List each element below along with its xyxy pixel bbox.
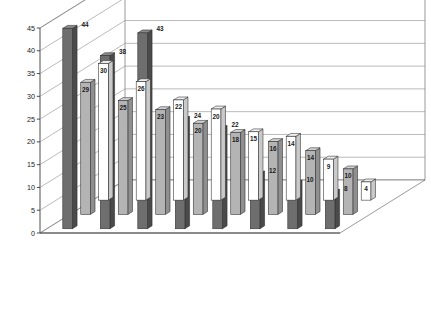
bar-value-label: 44	[82, 21, 90, 28]
y-tick-label: 40	[27, 46, 35, 55]
chart-container: 051015202530354045 443843242212108292523…	[0, 0, 431, 315]
bar-disrespect-for-authority-1	[118, 98, 132, 215]
bar-crime-3	[211, 106, 225, 200]
y-tick-label: 25	[27, 115, 35, 124]
y-tick-label: 5	[31, 206, 35, 215]
bar-value-label: 10	[344, 172, 352, 179]
bar-disrespect-for-authority-2	[156, 107, 170, 215]
bar-value-label: 20	[194, 127, 202, 134]
y-tick-label: 0	[31, 229, 35, 238]
bar-value-label: 4	[364, 185, 368, 192]
bar-value-label: 23	[157, 113, 165, 120]
y-tick-label: 35	[27, 69, 35, 78]
bar-value-label: 26	[137, 85, 145, 92]
bar-value-label: 30	[100, 67, 108, 74]
bar-value-label: 9	[327, 163, 331, 170]
bar-value-label: 12	[269, 167, 277, 174]
bar-value-label: 16	[269, 145, 277, 152]
bar-value-label: 43	[157, 25, 165, 32]
bar-crime-1	[136, 79, 150, 200]
bar-value-label: 15	[250, 135, 258, 142]
bar-value-label: 20	[212, 113, 220, 120]
bar-value-label: 22	[175, 103, 183, 110]
bar-value-label: 22	[232, 121, 240, 128]
bar-value-label: 14	[287, 140, 295, 147]
bar-value-label: 10	[307, 176, 315, 183]
bar-chart-3d: 051015202530354045 443843242212108292523…	[0, 0, 431, 315]
bar-open-use-sale-of-drugs-0	[63, 25, 77, 228]
bar-crime-0	[99, 61, 113, 201]
bar-disrespect-for-authority-3	[193, 120, 207, 214]
y-tick-label: 15	[27, 160, 35, 169]
bar-value-label: 38	[119, 48, 127, 55]
y-tick-label: 20	[27, 137, 35, 146]
bar-value-label: 29	[82, 86, 90, 93]
bar-value-label: 8	[344, 185, 348, 192]
bar-value-label: 24	[194, 112, 202, 119]
bar-value-label: 25	[119, 104, 127, 111]
y-tick-label: 30	[27, 92, 35, 101]
bar-crime-2	[174, 97, 188, 200]
bar-disrespect-for-authority-0	[81, 79, 95, 214]
y-axis: 051015202530354045	[27, 24, 40, 238]
bar-value-label: 18	[232, 136, 240, 143]
y-tick-label: 45	[27, 24, 35, 33]
y-tick-label: 10	[27, 183, 35, 192]
bar-value-label: 14	[307, 154, 315, 161]
